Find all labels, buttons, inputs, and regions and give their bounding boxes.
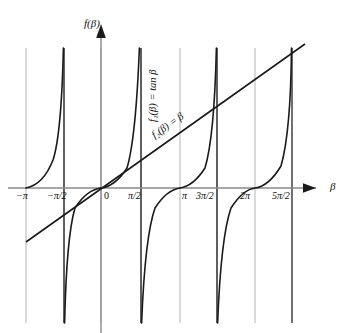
curve-f1-tan (26, 48, 292, 323)
curve-f2-identity (26, 44, 305, 242)
x-tick-label-pi-over-2: π/2 (128, 191, 141, 201)
figure-canvas: f(β) β −π −π/2 0 π/2 π 3π/2 2π 5π/2 f₁(β… (0, 0, 343, 333)
plot-svg (0, 0, 343, 333)
x-tick-label-neg-pi-over-2: −π/2 (47, 191, 67, 201)
x-tick-label-2pi: 2π (240, 191, 250, 201)
x-tick-label-5pi-over-2: 5π/2 (272, 191, 290, 201)
x-tick-label-pi: π (182, 191, 187, 201)
asymptote-lines (64, 48, 292, 323)
x-axis-label: β (330, 181, 335, 192)
y-axis-label: f(β) (84, 18, 100, 29)
curve-label-f1: f₁(β) = tan β (148, 70, 159, 122)
x-tick-label-zero: 0 (104, 191, 109, 201)
y-axis (96, 24, 106, 333)
x-tick-label-3pi-over-2: 3π/2 (196, 191, 214, 201)
x-tick-label-neg-pi: −π (16, 191, 28, 201)
